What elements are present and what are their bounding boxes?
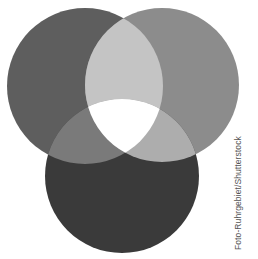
color-mixing-diagram	[0, 0, 258, 259]
photo-credit: Foto-Ruhrgebiet/Shutterstock	[233, 136, 243, 250]
